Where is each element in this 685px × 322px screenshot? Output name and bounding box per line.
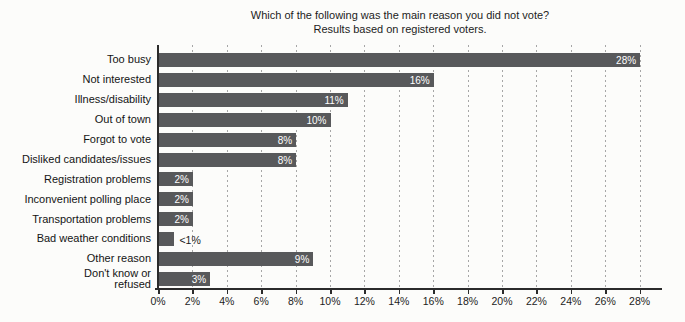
bar: 16% bbox=[159, 73, 434, 87]
bar: 11% bbox=[159, 93, 348, 107]
x-axis-tick bbox=[640, 290, 642, 294]
bar: 2% bbox=[159, 212, 193, 226]
x-axis-tick bbox=[433, 290, 435, 294]
bar-value-label: 9% bbox=[295, 254, 309, 265]
bar-value-label: 28% bbox=[616, 54, 636, 65]
bar-value-label: 8% bbox=[278, 134, 292, 145]
bar: 2% bbox=[159, 172, 193, 186]
x-axis bbox=[155, 288, 662, 290]
gridline bbox=[468, 45, 469, 288]
x-axis-tick bbox=[158, 290, 160, 294]
gridline bbox=[571, 45, 572, 288]
x-tick-label: 28% bbox=[618, 295, 662, 307]
bar: 28% bbox=[159, 53, 641, 67]
category-label: Don't know or refused bbox=[0, 269, 151, 289]
bar: 3% bbox=[159, 272, 211, 286]
bar-value-label: 2% bbox=[174, 174, 188, 185]
gridline bbox=[536, 45, 537, 288]
bar-value-label: 2% bbox=[174, 194, 188, 205]
category-label: Inconvenient polling place bbox=[0, 189, 151, 209]
x-axis-tick bbox=[227, 290, 229, 294]
bar-value-label: 11% bbox=[324, 94, 343, 105]
x-axis-tick bbox=[605, 290, 607, 294]
bar: 2% bbox=[159, 192, 193, 206]
x-axis-tick bbox=[399, 290, 401, 294]
x-axis-tick bbox=[364, 290, 366, 294]
category-label: Too busy bbox=[0, 50, 151, 70]
category-label: Not interested bbox=[0, 70, 151, 90]
bar: 9% bbox=[159, 252, 314, 266]
category-label: Out of town bbox=[0, 110, 151, 130]
x-axis-tick bbox=[536, 290, 538, 294]
bar-value-label: 2% bbox=[174, 214, 188, 225]
category-label: Disliked candidates/issues bbox=[0, 150, 151, 170]
x-axis-tick bbox=[502, 290, 504, 294]
gridline bbox=[640, 45, 641, 288]
plot-area: 0%2%4%6%8%10%12%14%16%18%20%22%24%26%28%… bbox=[0, 0, 685, 322]
bar: 8% bbox=[159, 153, 297, 167]
bar-value-label: 3% bbox=[192, 274, 206, 285]
bar: 10% bbox=[159, 113, 331, 127]
x-axis-tick bbox=[571, 290, 573, 294]
x-axis-tick bbox=[296, 290, 298, 294]
bar-value-label: <1% bbox=[179, 234, 200, 246]
category-label: Forgot to vote bbox=[0, 130, 151, 150]
category-label: Illness/disability bbox=[0, 90, 151, 110]
bar-chart: Which of the following was the main reas… bbox=[0, 0, 685, 322]
gridline bbox=[605, 45, 606, 288]
bar-value-label: 10% bbox=[306, 114, 326, 125]
x-axis-tick bbox=[330, 290, 332, 294]
bar: 8% bbox=[159, 133, 297, 147]
category-label: Transportation problems bbox=[0, 209, 151, 229]
bar-value-label: 16% bbox=[410, 74, 430, 85]
gridline bbox=[502, 45, 503, 288]
bar bbox=[159, 232, 174, 246]
x-axis-tick bbox=[468, 290, 470, 294]
bar-value-label: 8% bbox=[278, 154, 292, 165]
category-label: Bad weather conditions bbox=[0, 229, 151, 249]
category-label: Registration problems bbox=[0, 170, 151, 190]
x-axis-tick bbox=[192, 290, 194, 294]
x-axis-tick bbox=[261, 290, 263, 294]
